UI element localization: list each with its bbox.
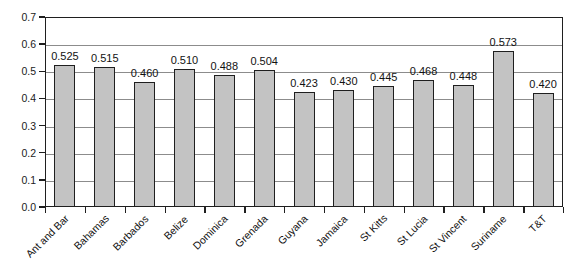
bar-value-label: 0.525 [51, 51, 79, 62]
bar-value-label: 0.573 [489, 37, 517, 48]
bar-value-label: 0.488 [211, 61, 239, 72]
x-axis-category-label: Barbados [111, 213, 150, 252]
y-axis-tick-label: 0.7 [6, 12, 36, 23]
bar [333, 90, 354, 207]
y-axis-tick-mark [39, 98, 45, 99]
bar [214, 75, 235, 207]
bar-value-label: 0.423 [290, 78, 318, 89]
x-axis-category-label: Suriname [469, 213, 508, 252]
x-axis-tick-mark [125, 207, 126, 213]
bar [54, 65, 75, 208]
bar-value-label: 0.515 [91, 53, 119, 64]
x-axis-tick-mark [443, 207, 444, 213]
bar-value-label: 0.460 [131, 68, 159, 79]
x-axis-category-label: St Vincent [427, 213, 468, 254]
x-axis-category-label: T&T [527, 213, 548, 234]
y-axis-tick-label: 0.5 [6, 66, 36, 77]
bar [94, 67, 115, 207]
x-axis-tick-mark [364, 207, 365, 213]
y-axis-tick-label: 0.0 [6, 202, 36, 213]
bar [493, 51, 514, 207]
x-axis-category-label: St Kitts [358, 213, 389, 244]
bar-value-label: 0.468 [410, 66, 438, 77]
bar-chart: 0.00.10.20.30.40.50.60.7 0.5250.5150.460… [0, 0, 587, 272]
x-axis-tick-mark [85, 207, 86, 213]
y-axis-tick-mark [39, 125, 45, 126]
x-axis-tick-mark [284, 207, 285, 213]
bar [174, 69, 195, 207]
bar [453, 85, 474, 207]
bar [254, 70, 275, 207]
y-axis-tick-mark [39, 71, 45, 72]
x-axis-category-label: Bahamas [72, 213, 111, 252]
bar-value-label: 0.445 [370, 72, 398, 83]
y-axis-tick-label: 0.6 [6, 39, 36, 50]
x-axis-category-label: St Lucia [395, 213, 429, 247]
x-axis-tick-mark [523, 207, 524, 213]
bar-value-label: 0.510 [171, 55, 199, 66]
x-axis-category-label: Dominica [191, 213, 229, 251]
gridline [46, 72, 562, 73]
bar [413, 80, 434, 207]
x-axis-tick-mark [204, 207, 205, 213]
x-axis-tick-mark [404, 207, 405, 213]
y-axis-tick-mark [39, 16, 45, 17]
x-axis-tick-mark [483, 207, 484, 213]
bar-value-label: 0.430 [330, 76, 358, 87]
x-axis-category-label: Guyana [276, 213, 309, 246]
y-axis-tick-label: 0.2 [6, 147, 36, 158]
bar-value-label: 0.420 [529, 79, 557, 90]
x-axis-category-label: Belize [162, 213, 190, 241]
y-axis-tick-mark [39, 152, 45, 153]
x-axis-tick-mark [165, 207, 166, 213]
x-axis-tick-mark [324, 207, 325, 213]
x-axis-category-label: Jamaica [314, 213, 349, 248]
bar [134, 82, 155, 207]
x-axis-category-label: Grenada [233, 213, 269, 249]
gridline [46, 45, 562, 46]
x-axis-tick-mark [244, 207, 245, 213]
x-axis-tick-mark [563, 207, 564, 213]
bar-value-label: 0.448 [450, 71, 478, 82]
y-axis-tick-label: 0.1 [6, 175, 36, 186]
y-axis-tick-labels: 0.00.10.20.30.40.50.60.7 [6, 0, 36, 272]
bar-value-label: 0.504 [250, 56, 278, 67]
x-axis-tick-mark [45, 207, 46, 213]
y-axis-tick-label: 0.3 [6, 120, 36, 131]
y-axis-tick-mark [39, 179, 45, 180]
bar [533, 93, 554, 207]
bar [373, 86, 394, 207]
y-axis-tick-mark [39, 43, 45, 44]
bar [294, 92, 315, 207]
y-axis-tick-label: 0.4 [6, 93, 36, 104]
